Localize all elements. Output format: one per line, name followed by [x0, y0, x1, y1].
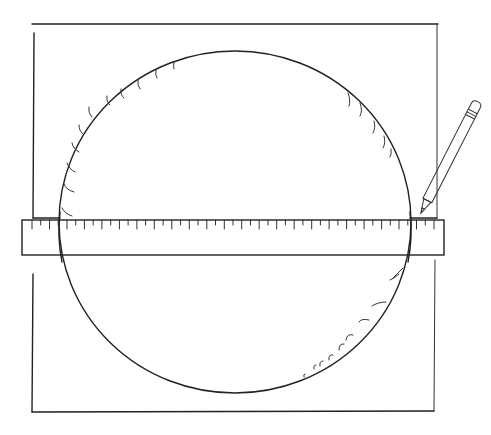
bottom-paper-frame	[32, 260, 435, 412]
hatch-marks-lower-right	[304, 268, 403, 377]
hatch-marks-upper-right	[348, 93, 391, 157]
pencil-icon	[417, 99, 483, 215]
hatch-marks-upper-left	[62, 62, 174, 216]
drawn-circle	[59, 51, 411, 393]
circle-ruler-drawing	[0, 0, 491, 435]
ruler-tick-marks	[32, 220, 434, 229]
ruler	[22, 220, 444, 255]
diagram-canvas	[0, 0, 491, 435]
